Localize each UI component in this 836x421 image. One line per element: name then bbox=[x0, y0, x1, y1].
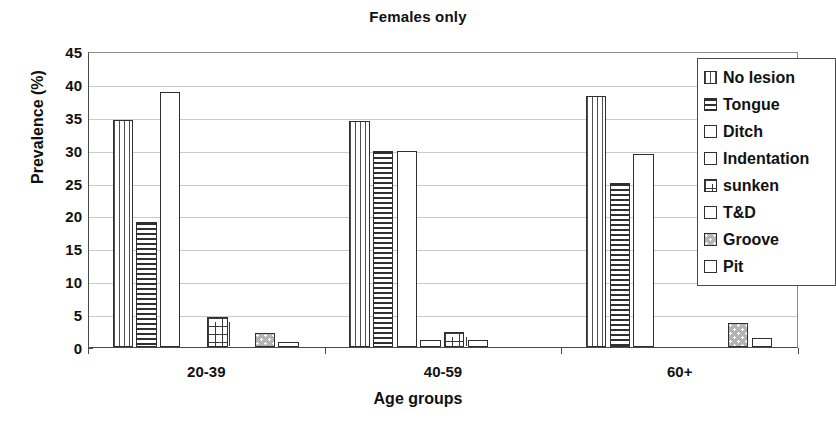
bar bbox=[373, 151, 393, 347]
bar bbox=[586, 96, 606, 347]
legend-item: T&D bbox=[704, 199, 835, 226]
legend-item: Ditch bbox=[704, 118, 835, 145]
legend-label: No lesion bbox=[723, 70, 795, 86]
x-axis-tick-mark bbox=[88, 348, 89, 354]
y-axis-tick-label: 40 bbox=[38, 76, 82, 93]
legend-label: Pit bbox=[723, 259, 743, 275]
x-axis-tick-label: 60+ bbox=[667, 363, 692, 380]
legend-swatch-icon bbox=[704, 206, 717, 219]
gridline bbox=[89, 316, 797, 317]
gridline bbox=[89, 283, 797, 284]
legend-label: sunken bbox=[723, 178, 779, 194]
bar bbox=[397, 151, 417, 347]
y-axis-tick-label: 30 bbox=[38, 142, 82, 159]
gridline bbox=[89, 152, 797, 153]
y-axis-tick-label: 25 bbox=[38, 175, 82, 192]
legend-item: sunken bbox=[704, 172, 835, 199]
bar bbox=[160, 92, 180, 347]
gridline bbox=[89, 86, 797, 87]
chart-title: Females only bbox=[0, 8, 836, 25]
y-axis-tick-label: 5 bbox=[38, 307, 82, 324]
legend-swatch-icon bbox=[704, 98, 717, 111]
bar bbox=[278, 342, 298, 347]
legend-swatch-icon bbox=[704, 179, 717, 192]
bar bbox=[349, 121, 369, 347]
y-axis-tick-label: 0 bbox=[38, 340, 82, 357]
legend-label: T&D bbox=[723, 205, 756, 221]
y-axis-tick-label: 15 bbox=[38, 241, 82, 258]
bar bbox=[468, 340, 488, 347]
bar bbox=[752, 338, 772, 347]
bar bbox=[420, 340, 440, 347]
legend-item: Indentation bbox=[704, 145, 835, 172]
legend-item: Groove bbox=[704, 226, 835, 253]
bar bbox=[444, 332, 464, 347]
plot-area bbox=[88, 52, 798, 348]
legend-swatch-icon bbox=[704, 125, 717, 138]
y-axis-tick-label: 10 bbox=[38, 274, 82, 291]
gridline bbox=[89, 119, 797, 120]
bar bbox=[113, 120, 133, 347]
bar bbox=[728, 323, 748, 347]
x-axis-title: Age groups bbox=[0, 390, 836, 408]
bar bbox=[610, 183, 630, 347]
x-axis-tick-mark bbox=[561, 348, 562, 354]
y-axis-tick-labels: 454035302520151050 bbox=[30, 52, 82, 348]
legend-item: Tongue bbox=[704, 91, 835, 118]
legend-swatch-icon bbox=[704, 233, 717, 246]
y-axis-tick-label: 20 bbox=[38, 208, 82, 225]
chart-legend: No lesionTongueDitchIndentationsunkenT&D… bbox=[697, 58, 836, 286]
y-axis-tick-label: 35 bbox=[38, 109, 82, 126]
legend-swatch-icon bbox=[704, 152, 717, 165]
legend-label: Groove bbox=[723, 232, 779, 248]
x-axis-tick-label: 40-59 bbox=[424, 363, 462, 380]
gridline bbox=[89, 250, 797, 251]
legend-label: Tongue bbox=[723, 97, 780, 113]
bar bbox=[207, 317, 227, 347]
bar bbox=[136, 222, 156, 347]
legend-swatch-icon bbox=[704, 260, 717, 273]
legend-label: Indentation bbox=[723, 151, 809, 167]
bar bbox=[633, 154, 653, 347]
legend-item: No lesion bbox=[704, 64, 835, 91]
x-axis-tick-label: 20-39 bbox=[187, 363, 225, 380]
bar-chart: Females only Prevalence (%) Age groups 4… bbox=[0, 0, 836, 421]
x-axis-tick-mark bbox=[325, 348, 326, 354]
y-axis-tick-label: 45 bbox=[38, 44, 82, 61]
legend-item: Pit bbox=[704, 253, 835, 280]
bar bbox=[255, 333, 275, 348]
gridline bbox=[89, 217, 797, 218]
legend-swatch-icon bbox=[704, 71, 717, 84]
x-axis-tick-mark bbox=[798, 348, 799, 354]
gridline bbox=[89, 185, 797, 186]
legend-label: Ditch bbox=[723, 124, 763, 140]
